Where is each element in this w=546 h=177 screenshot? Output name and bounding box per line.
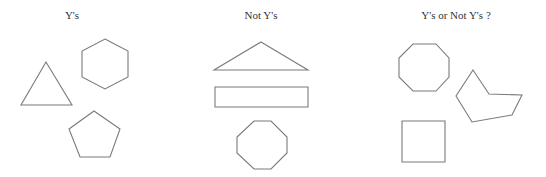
octagon-shape — [399, 44, 449, 91]
obtuse-triangle-shape — [214, 42, 308, 70]
panel-ys — [21, 39, 128, 157]
triangle-shape — [21, 62, 72, 105]
octagon-shape — [237, 121, 287, 169]
shapes-canvas — [0, 0, 546, 177]
square-shape — [402, 121, 445, 162]
hexagon-shape — [82, 39, 128, 89]
rectangle-shape — [215, 87, 308, 107]
concave-pentagon-shape — [456, 70, 522, 122]
pentagon-shape — [69, 111, 120, 157]
panel-ys-or-not-ys — [399, 44, 522, 162]
panel-not-ys — [214, 42, 308, 169]
